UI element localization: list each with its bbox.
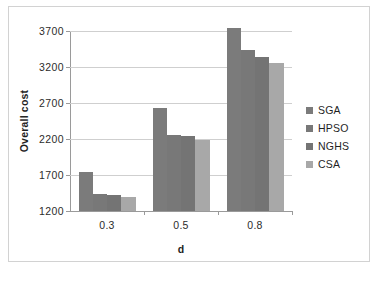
x-axis-tick-mark [144, 211, 145, 215]
x-axis-tick-label: 0.5 [144, 219, 218, 231]
bar-csa-0.3 [121, 197, 135, 211]
bar-nghs-0.5 [181, 136, 195, 211]
bar-sga-0.8 [227, 28, 241, 211]
legend-swatch-icon [306, 125, 313, 132]
legend-item-csa: CSA [306, 155, 349, 173]
x-axis-tick-mark [218, 211, 219, 215]
gridline [70, 31, 292, 32]
x-axis-tick-label: 0.3 [70, 219, 144, 231]
chart-figure: Overall cost 120017002200270032003700 0.… [0, 0, 382, 284]
legend-label: CSA [318, 158, 340, 170]
x-axis-line [70, 211, 292, 212]
bar-sga-0.3 [79, 172, 93, 211]
y-axis-tick-label: 1700 [22, 169, 64, 181]
bar-nghs-0.8 [255, 57, 269, 211]
legend-swatch-icon [306, 161, 313, 168]
legend-item-nghs: NGHS [306, 137, 349, 155]
y-axis-tick-label: 2200 [22, 133, 64, 145]
bar-hpso-0.5 [167, 135, 181, 211]
x-axis-title: d [70, 243, 292, 255]
chart-legend: SGAHPSONGHSCSA [306, 101, 349, 173]
x-axis-tick-label: 0.8 [218, 219, 292, 231]
legend-label: HPSO [318, 122, 349, 134]
bar-hpso-0.8 [241, 50, 255, 211]
x-axis-tick-mark [292, 211, 293, 215]
bar-csa-0.5 [195, 140, 209, 211]
y-axis-tick-label: 2700 [22, 97, 64, 109]
legend-item-hpso: HPSO [306, 119, 349, 137]
legend-swatch-icon [306, 143, 313, 150]
y-axis-tick-label: 3700 [22, 25, 64, 37]
legend-swatch-icon [306, 107, 313, 114]
bar-csa-0.8 [269, 63, 283, 211]
bar-sga-0.5 [153, 108, 167, 211]
bar-hpso-0.3 [93, 194, 107, 211]
plot-area [70, 31, 292, 211]
legend-label: SGA [318, 104, 341, 116]
legend-label: NGHS [318, 140, 349, 152]
bar-nghs-0.3 [107, 195, 121, 211]
y-axis-tick-label: 1200 [22, 205, 64, 217]
y-axis-tick-label: 3200 [22, 61, 64, 73]
legend-item-sga: SGA [306, 101, 349, 119]
